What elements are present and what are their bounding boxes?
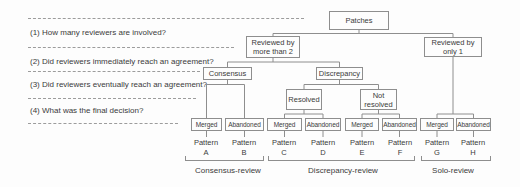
dashed-line-1 [28,18,304,19]
group-label-solo-review: Solo-review [393,166,513,176]
pattern-g: Pattern G [417,138,457,158]
pattern-a-word: Pattern [186,138,226,148]
pattern-h: Pattern H [453,138,493,158]
dashed-line-4 [28,98,196,99]
pattern-d-letter: D [303,148,343,158]
pattern-c-word: Pattern [264,138,304,148]
question-1: (1) How many reviewers are involved? [30,28,166,37]
pattern-e-letter: E [342,148,382,158]
node-patches: Patches [329,11,389,30]
node-discrepancy: Discrepancy [316,67,363,80]
node-not-resolved: Not resolved [360,89,397,110]
question-4: (4) What was the final decision? [30,106,143,115]
pattern-f-word: Pattern [380,138,420,148]
dashed-line-3 [28,71,200,72]
outcome-merged-e: Merged [345,118,379,131]
node-consensus: Consensus [203,67,252,80]
dashed-line-2 [28,47,234,48]
outcome-abandoned-f: Abandoned [382,118,417,131]
pattern-d: Pattern D [303,138,343,158]
pattern-b-word: Pattern [224,138,264,148]
question-2: (2) Did reviewers immediately reach an a… [30,57,214,66]
pattern-g-word: Pattern [417,138,457,148]
dashed-line-5 [28,123,178,124]
review-pattern-diagram: (1) How many reviewers are involved? (2)… [0,0,520,187]
pattern-g-letter: G [417,148,457,158]
outcome-merged-a: Merged [191,118,222,131]
node-reviewed-only-1: Reviewed by only 1 [424,37,482,57]
pattern-b: Pattern B [224,138,264,158]
pattern-c-letter: C [264,148,304,158]
pattern-c: Pattern C [264,138,304,158]
node-resolved: Resolved [286,89,322,110]
outcome-abandoned-d: Abandoned [305,118,341,131]
group-label-discrepancy-review: Discrepancy-review [283,166,403,176]
pattern-f-letter: F [380,148,420,158]
pattern-h-word: Pattern [453,138,493,148]
outcome-merged-g: Merged [420,118,454,131]
pattern-a-letter: A [186,148,226,158]
outcome-merged-c: Merged [267,118,302,131]
group-label-consensus-review: Consensus-review [168,166,288,176]
pattern-a: Pattern A [186,138,226,158]
outcome-abandoned-h: Abandoned [456,118,491,131]
outcome-abandoned-b: Abandoned [225,118,264,131]
pattern-f: Pattern F [380,138,420,158]
pattern-b-letter: B [224,148,264,158]
pattern-h-letter: H [453,148,493,158]
pattern-d-word: Pattern [303,138,343,148]
pattern-e-word: Pattern [342,138,382,148]
question-3: (3) Did reviewers eventually reach an ag… [30,80,207,89]
node-reviewed-more-than-2: Reviewed by more than 2 [246,36,300,58]
pattern-e: Pattern E [342,138,382,158]
